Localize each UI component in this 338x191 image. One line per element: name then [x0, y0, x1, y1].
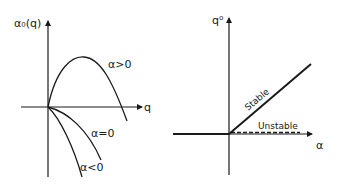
left-panel: α₀(q) q α>0 α=0 α<0	[14, 17, 151, 177]
unstable-branch-label: Unstable	[258, 121, 298, 131]
right-y-axis-label: q⁰	[212, 14, 224, 27]
stable-branch-label: Stable	[243, 86, 272, 112]
left-x-axis-label: q	[144, 101, 151, 114]
curve-alpha-negative-label: α<0	[80, 161, 103, 174]
right-x-axis-label: α	[316, 139, 323, 152]
right-panel: q⁰ α Stable Unstable	[173, 14, 323, 175]
left-y-axis-label: α₀(q)	[14, 17, 41, 30]
curve-alpha-zero-label: α=0	[91, 127, 114, 140]
curve-alpha-negative	[48, 107, 82, 177]
curve-alpha-positive-label: α>0	[108, 58, 131, 71]
diagram-canvas: α₀(q) q α>0 α=0 α<0 q⁰ α Stable Unstable	[0, 0, 338, 191]
